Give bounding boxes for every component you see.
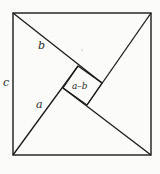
pythagorean-diagram: b c a a–b [0, 0, 160, 174]
speck-dot [81, 49, 82, 50]
line-top-left [13, 13, 102, 83]
label-a-minus-b: a–b [72, 81, 88, 91]
label-c: c [3, 76, 9, 89]
label-a: a [36, 98, 43, 111]
label-b: b [38, 39, 45, 52]
